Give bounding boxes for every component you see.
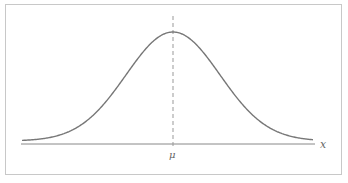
bell-curve bbox=[22, 32, 313, 140]
mean-label: μ bbox=[169, 149, 176, 160]
normal-curve-chart: μ x bbox=[0, 0, 348, 183]
x-axis-label: x bbox=[320, 138, 327, 151]
